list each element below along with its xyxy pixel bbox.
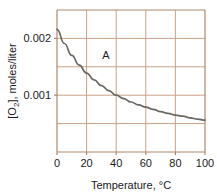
- x-tick-label: 80: [169, 157, 181, 169]
- x-tick-label: 40: [110, 157, 122, 169]
- y-tick-label: 0.001: [23, 89, 51, 101]
- x-tick-label: 0: [54, 157, 60, 169]
- curve-annotation-a: A: [102, 49, 110, 61]
- x-tick-label: 20: [80, 157, 92, 169]
- chart-figure: 020406080100 0.0010.002 Temperature, °C …: [0, 0, 217, 195]
- x-tick-label: 100: [196, 157, 214, 169]
- x-tick-label: 60: [140, 157, 152, 169]
- y-tick-label: 0.002: [23, 32, 51, 44]
- oxygen-solubility-chart: 020406080100 0.0010.002 Temperature, °C …: [0, 0, 217, 195]
- x-axis-title: Temperature, °C: [91, 179, 171, 191]
- plot-annotations: A: [102, 49, 110, 61]
